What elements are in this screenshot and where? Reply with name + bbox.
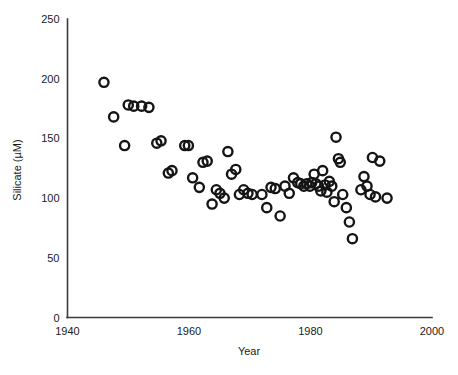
y-tick-label: 0 — [53, 312, 59, 324]
y-tick-label: 50 — [47, 252, 59, 264]
y-tick-label: 150 — [41, 132, 59, 144]
axis-lines — [67, 19, 432, 318]
data-point — [207, 199, 216, 208]
data-point — [338, 190, 347, 199]
data-point — [99, 78, 108, 87]
data-point — [188, 173, 197, 182]
x-axis-title: Year — [238, 345, 261, 357]
data-point — [342, 203, 351, 212]
data-point — [345, 217, 354, 226]
data-point — [109, 112, 118, 121]
y-tick-label: 100 — [41, 192, 59, 204]
x-tick-label: 1940 — [55, 325, 79, 337]
data-point — [382, 194, 391, 203]
data-point — [223, 147, 232, 156]
data-point — [331, 133, 340, 142]
x-tick-labels: 1940196019802000 — [55, 325, 444, 337]
data-point-markers — [99, 78, 391, 244]
data-point — [318, 166, 327, 175]
x-tick-label: 2000 — [420, 325, 444, 337]
data-point — [359, 172, 368, 181]
x-tick-label: 1960 — [177, 325, 201, 337]
y-tick-label: 250 — [41, 13, 59, 25]
data-point — [262, 203, 271, 212]
data-point — [348, 234, 357, 243]
plot-canvas: 050100150200250 1940196019802000 Year Si… — [0, 0, 458, 375]
scatter-plot-figure: 050100150200250 1940196019802000 Year Si… — [0, 0, 458, 375]
data-point — [276, 211, 285, 220]
data-point — [257, 190, 266, 199]
x-tick-label: 1980 — [298, 325, 322, 337]
data-point — [120, 141, 129, 150]
y-tick-label: 200 — [41, 73, 59, 85]
data-point — [285, 189, 294, 198]
data-point — [330, 197, 339, 206]
y-axis-title: Silicate (µM) — [11, 139, 23, 200]
y-tick-labels: 050100150200250 — [41, 13, 59, 324]
data-point — [195, 183, 204, 192]
